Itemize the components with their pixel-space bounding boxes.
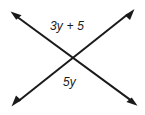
arrowhead-lower-left-icon	[12, 96, 22, 107]
geometry-figure: 3y + 5 5y	[0, 0, 145, 115]
arrowhead-upper-right-icon	[125, 9, 135, 20]
angle-label-lower: 5y	[63, 76, 76, 88]
angle-label-upper: 3y + 5	[50, 20, 84, 32]
intersecting-lines-svg	[0, 0, 145, 115]
